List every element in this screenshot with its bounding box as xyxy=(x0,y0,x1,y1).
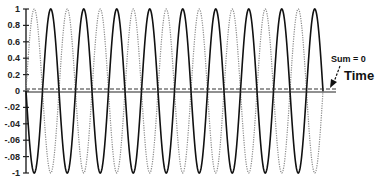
sine-cancellation-chart: 10.80.60.40.20-.02-.04-.06-.08-1 Sum = 0… xyxy=(0,0,379,186)
y-tick-label: -.02 xyxy=(4,102,20,112)
y-tick-label: 0.6 xyxy=(7,37,20,47)
y-tick-label: -.04 xyxy=(4,119,20,129)
sum-annotation: Sum = 0 xyxy=(331,54,366,64)
sum-arrow-shaft xyxy=(334,66,340,82)
y-tick-label: 0.8 xyxy=(7,20,20,30)
y-tick-label: -1 xyxy=(12,168,20,178)
y-tick-label: 0 xyxy=(15,86,20,96)
sum-arrow-head xyxy=(330,79,337,88)
x-axis-label-time: Time xyxy=(344,68,374,83)
y-tick-label: -.06 xyxy=(4,135,20,145)
wave-solid-line xyxy=(26,9,323,173)
y-tick-label: -.08 xyxy=(4,152,20,162)
y-tick-label: 0.4 xyxy=(7,53,20,63)
y-tick-label: 1 xyxy=(15,4,20,14)
y-tick-label: 0.2 xyxy=(7,70,20,80)
